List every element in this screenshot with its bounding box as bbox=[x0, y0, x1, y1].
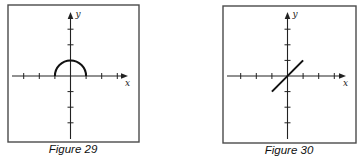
figure-30: y x Figure 30 bbox=[223, 6, 356, 156]
x-axis-label: x bbox=[343, 78, 348, 88]
y-axis-arrow-icon bbox=[285, 12, 291, 19]
y-axis-label: y bbox=[75, 9, 82, 19]
figure-caption: Figure 30 bbox=[265, 144, 314, 156]
x-axis-label: x bbox=[125, 78, 130, 88]
y-axis-label: y bbox=[292, 9, 299, 19]
figure-caption: Figure 29 bbox=[49, 143, 98, 155]
figure-29: y x Figure 29 bbox=[8, 5, 139, 155]
figure-frame bbox=[8, 5, 139, 142]
y-axis-arrow-icon bbox=[68, 12, 74, 19]
axes bbox=[12, 12, 128, 139]
axes bbox=[227, 12, 346, 139]
figures-canvas: y x Figure 29 y x Figure 30 bbox=[0, 0, 364, 159]
